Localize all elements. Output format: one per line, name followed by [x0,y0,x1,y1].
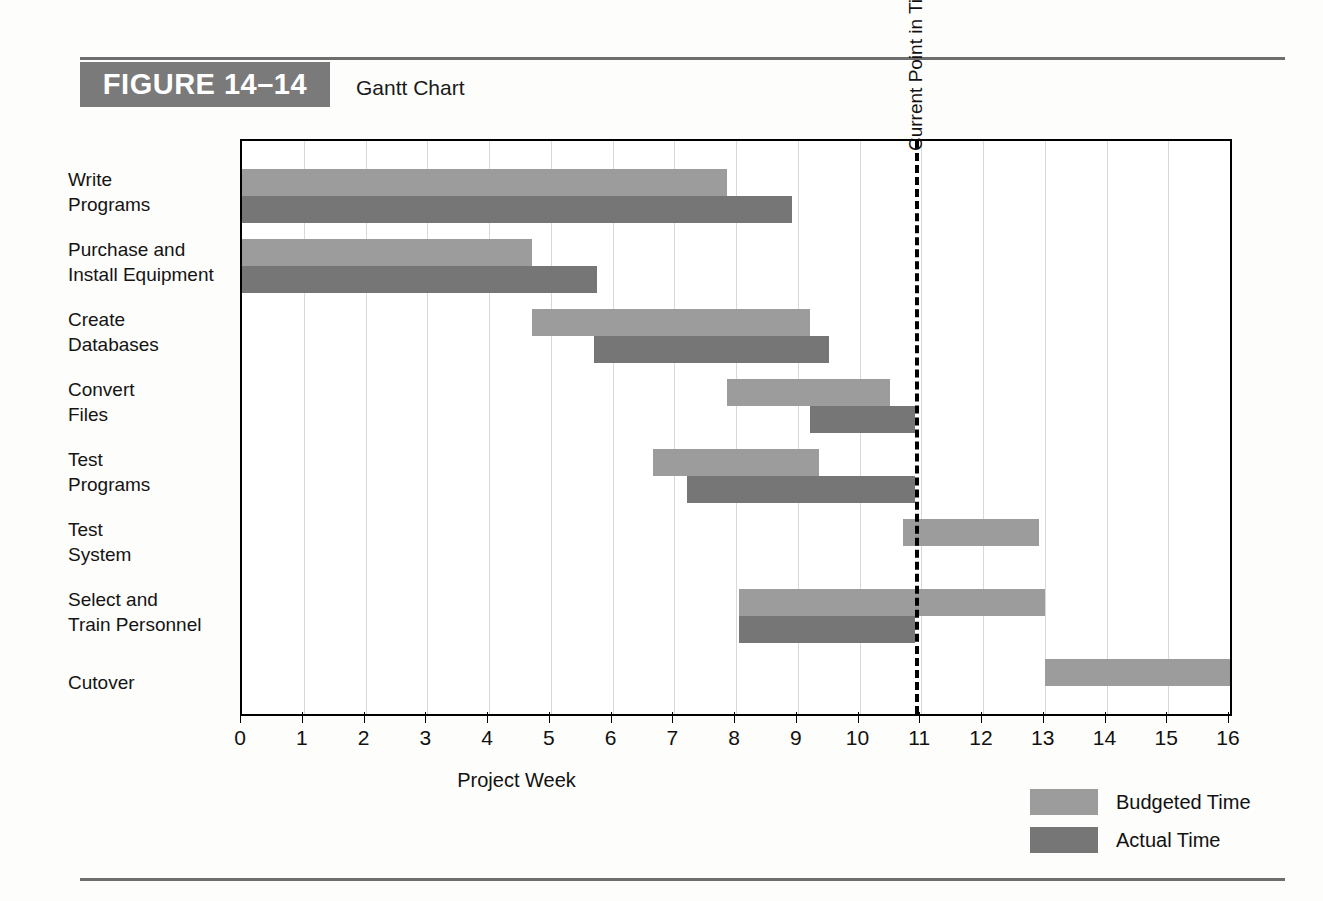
x-axis-tick-label: 4 [467,726,507,750]
gantt-bar-budgeted [739,589,1045,616]
gridline [304,141,305,714]
task-label: CreateDatabases [68,307,238,357]
x-axis-tick-label: 2 [344,726,384,750]
x-axis-tick-label: 10 [838,726,878,750]
x-axis-tick [919,712,920,723]
task-label: Cutover [68,670,238,695]
x-axis-tick-label: 6 [591,726,631,750]
bottom-divider-rule [80,878,1285,881]
task-label: WritePrograms [68,167,238,217]
gridline [1107,141,1108,714]
chart-legend: Budgeted Time Actual Time [1030,783,1251,859]
gridline [1168,141,1169,714]
x-axis-tick-label: 16 [1208,726,1248,750]
task-label-line: Purchase and [68,237,238,262]
gantt-plot-area: Current Point in Time [240,139,1232,716]
x-axis-tick-label: 1 [282,726,322,750]
task-label-line: Cutover [68,670,238,695]
gridline [427,141,428,714]
x-axis-tick-label: 0 [220,726,260,750]
gantt-bar-actual [739,616,915,643]
x-axis-tick [302,712,303,723]
gantt-bar-budgeted [242,169,727,196]
gridline [674,141,675,714]
x-axis-tick [611,712,612,723]
task-label-line: Files [68,402,238,427]
x-axis-tick [240,712,241,723]
task-label-line: Write [68,167,238,192]
gridline [551,141,552,714]
x-axis-tick-label: 9 [776,726,816,750]
task-label: Purchase andInstall Equipment [68,237,238,287]
x-axis-tick [672,712,673,723]
x-axis-tick [1105,712,1106,723]
figure-number-tag: FIGURE 14–14 [80,62,330,107]
current-point-in-time-line [915,141,919,714]
x-axis-tick [1228,712,1229,723]
task-label-line: Install Equipment [68,262,238,287]
x-axis-tick-label: 5 [529,726,569,750]
x-axis-tick-label: 8 [714,726,754,750]
gridline [366,141,367,714]
legend-swatch-actual-icon [1030,827,1098,853]
x-axis-tick-label: 3 [405,726,445,750]
x-axis-tick [734,712,735,723]
x-axis-tick [858,712,859,723]
x-axis-tick [487,712,488,723]
task-label-line: Databases [68,332,238,357]
top-divider-rule [80,57,1285,60]
x-axis-tick-label: 11 [899,726,939,750]
gridline [983,141,984,714]
task-label-line: Create [68,307,238,332]
task-label: Select andTrain Personnel [68,587,238,637]
figure-title: Gantt Chart [356,76,465,100]
task-label-line: Test [68,447,238,472]
gantt-bar-actual [242,196,792,223]
gridline [1045,141,1046,714]
gridline [489,141,490,714]
gantt-bar-budgeted [532,309,810,336]
x-axis-tick-label: 13 [1023,726,1063,750]
x-axis-tick-label: 15 [1146,726,1186,750]
task-label-line: Programs [68,192,238,217]
task-label-line: Programs [68,472,238,497]
x-axis-tick [1166,712,1167,723]
gantt-bar-budgeted [242,239,532,266]
current-point-in-time-label: Current Point in Time [905,0,927,151]
gantt-bar-actual [687,476,915,503]
x-axis-tick [796,712,797,723]
task-label-line: System [68,542,238,567]
gantt-bar-budgeted [727,379,891,406]
x-axis-tick-label: 7 [652,726,692,750]
gridline [736,141,737,714]
gantt-bar-actual [242,266,597,293]
gantt-bar-budgeted [653,449,820,476]
task-label: ConvertFiles [68,377,238,427]
gantt-bar-actual [810,406,915,433]
x-axis-tick [364,712,365,723]
task-label-line: Test [68,517,238,542]
task-label: TestSystem [68,517,238,567]
task-label-line: Train Personnel [68,612,238,637]
gantt-bar-budgeted [1045,659,1230,686]
legend-label-budgeted: Budgeted Time [1116,791,1251,814]
gantt-bar-budgeted [903,519,1039,546]
x-axis-tick [1043,712,1044,723]
legend-item-budgeted: Budgeted Time [1030,783,1251,821]
x-axis-tick [425,712,426,723]
task-label: TestPrograms [68,447,238,497]
x-axis-title-text: Project Week [457,769,576,791]
x-axis-tick-label: 14 [1085,726,1125,750]
legend-item-actual: Actual Time [1030,821,1251,859]
x-axis-tick [981,712,982,723]
gantt-bar-actual [594,336,829,363]
x-axis-tick [549,712,550,723]
legend-label-actual: Actual Time [1116,829,1220,852]
task-label-line: Convert [68,377,238,402]
gridline [613,141,614,714]
legend-swatch-budgeted-icon [1030,789,1098,815]
x-axis-tick-label: 12 [961,726,1001,750]
task-label-line: Select and [68,587,238,612]
gridline [921,141,922,714]
